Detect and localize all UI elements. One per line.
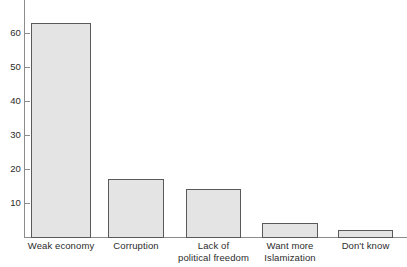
x-axis-category-label-line2: Islamization — [240, 252, 340, 264]
x-axis-category-label: Don't know — [316, 240, 407, 252]
x-axis-category-labels: Weak economyCorruptionLack ofpolitical f… — [0, 240, 407, 267]
bar — [262, 223, 318, 238]
bar-series — [0, 0, 407, 238]
bar — [186, 189, 241, 238]
x-axis-category-label-line1: Lack of — [198, 240, 229, 251]
x-axis-category-label-line1: Want more — [266, 240, 313, 251]
bar-chart: 102030405060 Weak economyCorruptionLack … — [0, 0, 407, 267]
x-axis-category-label-line1: Don't know — [342, 240, 390, 251]
bar — [338, 230, 393, 238]
x-axis-category-label-line1: Corruption — [113, 240, 158, 251]
bar — [108, 179, 164, 238]
bar — [31, 23, 91, 238]
x-axis-category-label-line1: Weak economy — [28, 240, 95, 251]
